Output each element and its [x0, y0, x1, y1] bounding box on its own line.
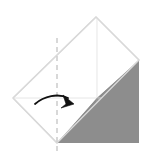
origami-diagram-svg: [0, 0, 148, 159]
origami-figure: Origami fold step diagram Square sheet r…: [0, 0, 148, 159]
